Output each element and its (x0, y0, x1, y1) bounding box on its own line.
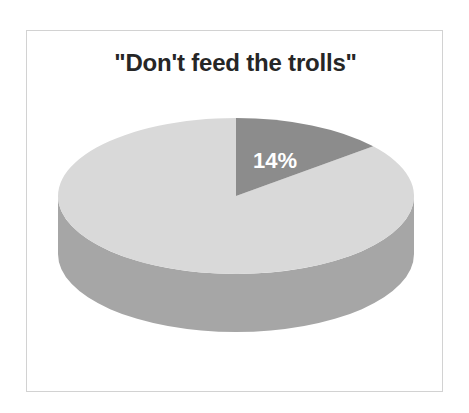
pie-slice-label-14-percent: 14% (240, 148, 310, 174)
pie-chart-plot-area (27, 31, 444, 393)
chart-screenshot: "Don't feed the trolls" 14% (0, 0, 469, 413)
pie-chart-svg (27, 31, 444, 393)
chart-frame: "Don't feed the trolls" 14% (26, 30, 443, 392)
